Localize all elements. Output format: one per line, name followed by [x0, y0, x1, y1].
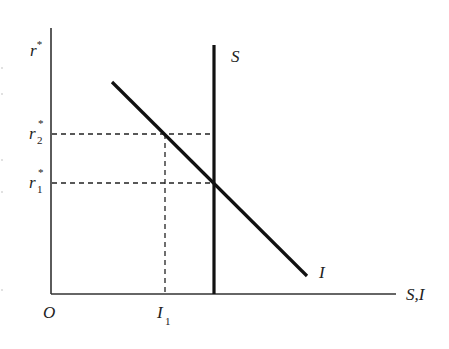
i-curve-label: I [318, 263, 326, 282]
y-tick-r2-sup: * [38, 117, 44, 129]
y-tick-r1-sup: * [38, 166, 44, 178]
origin-label: O [43, 303, 55, 322]
x-axis-label: S,I [406, 285, 426, 304]
y-tick-r2: r [29, 124, 36, 143]
diagram-canvas: r* r * 2 r * 1 S I S,I O I 1 [0, 0, 449, 349]
s-curve-label: S [231, 47, 240, 66]
x-tick-i1: I [156, 303, 164, 322]
edge-mark [1, 191, 3, 193]
x-tick-i1-sub: 1 [165, 315, 171, 327]
i-curve [112, 82, 307, 276]
edge-mark [1, 289, 3, 291]
y-tick-r1: r [29, 173, 36, 192]
edge-mark [1, 159, 3, 161]
edge-mark [1, 67, 3, 69]
y-axis-label: r* [30, 38, 42, 60]
y-tick-r2-sub: 2 [37, 134, 43, 146]
y-tick-r1-sub: 1 [37, 183, 43, 195]
edge-mark [1, 93, 3, 95]
